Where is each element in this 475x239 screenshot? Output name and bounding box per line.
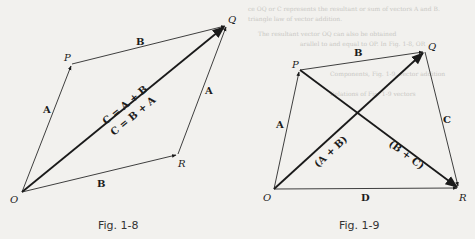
label-A: A	[275, 119, 284, 130]
figure-1-8: O P Q R A B B A C = A + B C = B + A Fig.…	[10, 14, 236, 232]
caption-fig-1-9: Fig. 1-9	[339, 219, 380, 232]
label-B-bottom: B	[97, 178, 105, 189]
point-P: P	[63, 52, 71, 63]
bleed-line-6: Relations of Fig. 1-9 vectors	[330, 90, 416, 98]
label-D: D	[361, 192, 370, 203]
label-B-top: B	[136, 36, 144, 47]
point-R: R	[458, 192, 467, 203]
bleed-line-2: triangle law of vector addition.	[248, 15, 342, 23]
label-A-left: A	[42, 104, 51, 115]
caption-fig-1-8: Fig. 1-8	[98, 219, 139, 232]
label-B: B	[354, 47, 362, 58]
bleed-line-1: ce OQ or C represents the resultant or s…	[248, 5, 440, 13]
bleed-line-3: The resultant vector OQ can also be obta…	[258, 30, 396, 37]
label-A-right: A	[204, 85, 213, 96]
label-A-plus-B: (A + B)	[312, 133, 349, 169]
vector-OP-A	[274, 72, 299, 189]
bleed-line-5: Components, Fig. 1-9, vector addition	[330, 70, 445, 78]
label-C: C	[443, 114, 451, 125]
point-P: P	[291, 59, 299, 70]
point-Q: Q	[228, 14, 236, 25]
bleed-line-4: arallel to and equal to OP. In Fig. 1-8,…	[300, 40, 426, 48]
label-B-plus-C: (B + C)	[387, 138, 427, 172]
vector-diagrams: ce OQ or C represents the resultant or s…	[0, 0, 475, 239]
point-O: O	[263, 192, 271, 203]
point-Q: Q	[428, 41, 436, 52]
vector-OR-D	[274, 188, 457, 189]
point-O: O	[10, 194, 18, 205]
background-bleed-text: ce OQ or C represents the resultant or s…	[248, 5, 445, 98]
point-R: R	[177, 158, 186, 169]
page: ce OQ or C represents the resultant or s…	[0, 0, 475, 239]
